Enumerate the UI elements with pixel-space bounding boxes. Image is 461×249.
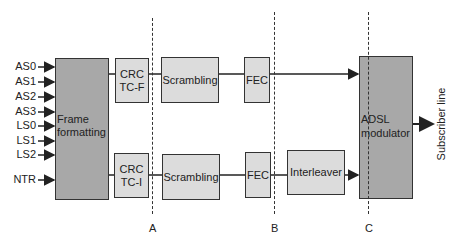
- reference-line-a: [152, 18, 153, 214]
- frame-formatting-block: Frame formatting: [55, 58, 109, 200]
- fec-fast-label: FEC: [246, 74, 268, 87]
- fec-interleaved-label: FEC: [247, 169, 269, 182]
- input-label-as3: AS3: [0, 105, 36, 117]
- reference-line-b: [274, 12, 275, 214]
- input-label-as0: AS0: [0, 60, 36, 72]
- crc-tc-f-line1: CRC: [120, 68, 144, 81]
- reference-label-c: C: [365, 222, 373, 234]
- frame-formatting-label: Frame formatting: [57, 113, 107, 139]
- input-label-as2: AS2: [0, 90, 36, 102]
- input-label-ls2: LS2: [0, 148, 36, 160]
- adsl-modulator-line1: ADSL: [361, 113, 390, 126]
- fec-fast-block: FEC: [244, 57, 270, 103]
- crc-tc-i-line2: TC-I: [121, 176, 142, 189]
- crc-tc-f-line2: TC-F: [119, 81, 144, 94]
- reference-label-b: B: [271, 222, 278, 234]
- scrambling-fast-block: Scrambling: [161, 57, 219, 103]
- interleaver-block: Interleaver: [287, 150, 345, 195]
- scrambling-fast-label: Scrambling: [162, 74, 217, 87]
- scrambling-interleaved-label: Scrambling: [163, 171, 218, 184]
- interleaver-label: Interleaver: [290, 166, 342, 179]
- input-label-ntr: NTR: [0, 173, 36, 185]
- scrambling-interleaved-block: Scrambling: [162, 154, 220, 200]
- input-label-ls1: LS1: [0, 134, 36, 146]
- crc-tc-f-block: CRC TC-F: [115, 58, 149, 103]
- crc-tc-i-line1: CRC: [120, 163, 144, 176]
- reference-line-c: [368, 12, 369, 214]
- reference-label-a: A: [149, 222, 156, 234]
- input-label-ls0: LS0: [0, 119, 36, 131]
- fec-interleaved-block: FEC: [245, 152, 271, 198]
- subscriber-line-label: Subscriber line: [435, 86, 447, 162]
- crc-tc-i-block: CRC TC-I: [114, 153, 149, 198]
- input-label-as1: AS1: [0, 75, 36, 87]
